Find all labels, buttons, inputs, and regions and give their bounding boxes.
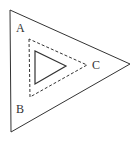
nested-triangles-diagram: A B C <box>0 0 135 141</box>
middle-dashed-triangle <box>29 39 87 97</box>
inner-triangle <box>35 51 66 84</box>
outer-triangle <box>10 10 130 132</box>
label-b: B <box>16 102 24 116</box>
label-a: A <box>16 21 25 35</box>
label-c: C <box>92 58 100 72</box>
